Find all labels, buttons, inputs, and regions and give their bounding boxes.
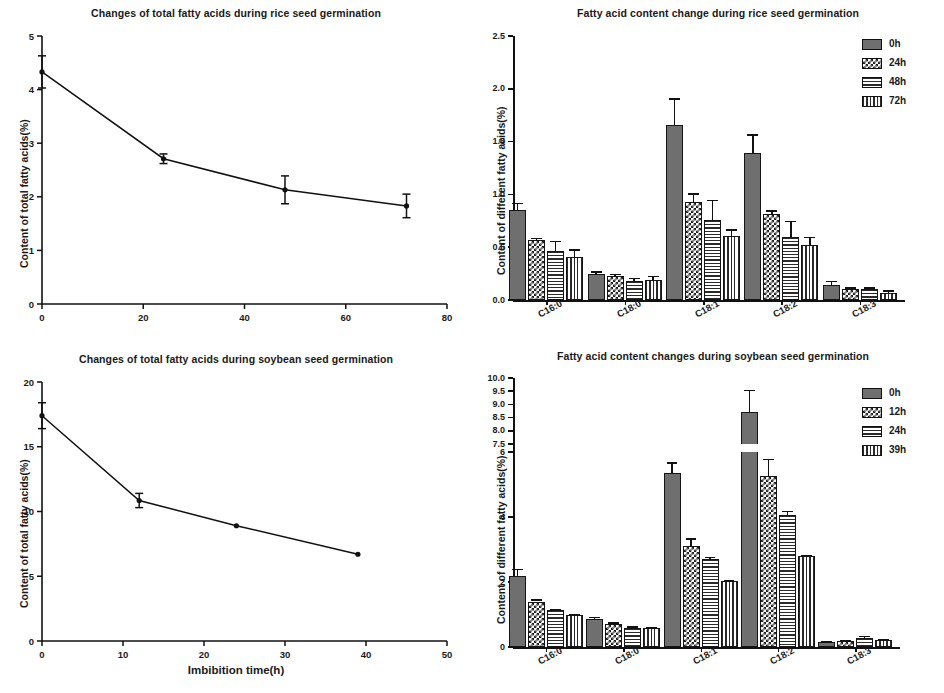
data-point <box>282 187 287 192</box>
x-tick-label: 10 <box>118 649 129 660</box>
bar <box>547 610 564 647</box>
error-bar-cap <box>883 290 894 291</box>
y-tick-label: 2 <box>29 191 34 202</box>
error-bar-cap <box>826 281 837 282</box>
bar <box>760 476 777 647</box>
error-bar-cap <box>705 557 716 558</box>
error-bar-cap <box>744 390 755 391</box>
error-bar <box>671 462 672 473</box>
bar <box>702 559 719 647</box>
y-tick-label: 4 <box>29 84 35 95</box>
data-point <box>39 69 44 74</box>
bar <box>528 240 545 300</box>
legend-swatch <box>862 388 882 399</box>
y-tick-label: 20 <box>23 377 34 388</box>
legend-swatch <box>862 426 882 437</box>
legend-label: 0h <box>889 38 901 49</box>
bar <box>721 581 738 647</box>
bar <box>704 220 721 300</box>
y-axis-label: Content of different fatty acids(%) <box>495 455 507 624</box>
bar <box>683 546 700 647</box>
error-bar-cap <box>845 287 856 288</box>
y-tick-label: 2.5 <box>472 31 505 41</box>
bar <box>586 619 603 647</box>
y-tick-label: 10 <box>23 506 34 517</box>
error-bar-cap <box>608 622 619 623</box>
bar <box>782 237 799 300</box>
error-bar-cap <box>629 278 640 279</box>
error-bar-cap <box>591 271 602 272</box>
error-bar-cap <box>801 555 812 556</box>
y-tick-label: 0 <box>29 636 34 647</box>
x-tick-label: 20 <box>138 312 149 323</box>
x-tick-label: 80 <box>442 312 453 323</box>
error-bar-cap <box>512 203 523 204</box>
bar <box>643 628 660 647</box>
bar <box>798 556 815 647</box>
error-bar <box>555 241 556 252</box>
error-bar-cap <box>627 626 638 627</box>
error-bar-cap <box>859 636 870 637</box>
legend-label: 0h <box>889 387 901 398</box>
error-bar-cap <box>821 641 832 642</box>
panel-soybean-bars: Fatty acid content changes during soybea… <box>472 346 944 693</box>
line-plot-area: 012345020406080 <box>0 0 472 346</box>
panel-rice-total-line: Changes of total fatty acids during rice… <box>0 0 472 346</box>
error-bar-cap <box>840 640 851 641</box>
bar <box>624 628 641 647</box>
panel-soybean-total-line: Changes of total fatty acids during soyb… <box>0 346 472 693</box>
error-bar-cap <box>686 538 697 539</box>
x-axis-label: Imbibition time(h) <box>0 664 472 676</box>
bar <box>842 289 859 300</box>
bar <box>547 251 564 300</box>
error-bar-cap <box>782 511 793 512</box>
error-bar-cap <box>569 249 580 250</box>
y-tick-label: 10.0 <box>472 373 505 383</box>
y-tick-label: 0 <box>472 642 505 652</box>
y-tick-mark <box>508 35 513 37</box>
bar <box>566 615 583 648</box>
error-bar-cap <box>648 276 659 277</box>
y-tick-mark <box>508 516 513 518</box>
x-tick-label: 60 <box>340 312 351 323</box>
legend-swatch <box>862 77 882 88</box>
y-tick-label: 0 <box>29 299 34 310</box>
bar <box>801 245 818 300</box>
error-bar <box>712 200 713 220</box>
y-tick-label: 1.5 <box>472 136 505 146</box>
error-bar-cap <box>512 569 523 570</box>
data-point <box>39 413 44 418</box>
error-bar-cap <box>667 462 678 463</box>
data-point <box>137 498 142 503</box>
bar <box>723 236 740 300</box>
error-bar <box>768 459 769 477</box>
legend-label: 39h <box>889 444 906 455</box>
error-bar-cap <box>724 580 735 581</box>
bar <box>880 293 897 300</box>
bar <box>763 214 780 300</box>
bar <box>664 473 681 647</box>
bar <box>666 125 683 300</box>
error-bar-cap <box>864 287 875 288</box>
bar <box>875 640 892 647</box>
legend-label: 48h <box>889 76 906 87</box>
error-bar-cap <box>766 210 777 211</box>
error-bar <box>752 134 753 153</box>
error-bar-cap <box>763 459 774 460</box>
y-tick-mark <box>508 194 513 196</box>
data-point <box>404 203 409 208</box>
bar <box>509 576 526 647</box>
y-tick-label: 7.5 <box>472 439 505 449</box>
y-tick-label: 15 <box>23 441 34 452</box>
bar <box>645 280 662 300</box>
panel-rice-bars: Fatty acid content change during rice se… <box>472 0 944 346</box>
y-tick-label: 0.0 <box>472 295 505 305</box>
error-bar-cap <box>550 609 561 610</box>
y-tick-label: 8.0 <box>472 425 505 435</box>
y-tick-label: 2 <box>472 577 505 587</box>
bar <box>509 210 526 300</box>
error-bar-cap <box>688 193 699 194</box>
legend-label: 12h <box>889 406 906 417</box>
error-bar-cap <box>531 599 542 600</box>
bar <box>779 515 796 647</box>
